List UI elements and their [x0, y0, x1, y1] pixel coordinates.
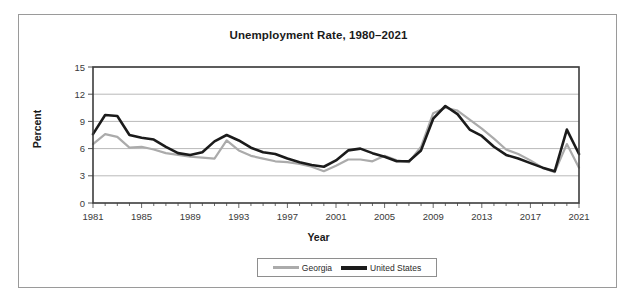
x-tick-label: 2017 [520, 211, 541, 222]
y-tick-label: 6 [80, 143, 85, 154]
x-tick-label: 1989 [180, 211, 201, 222]
x-tick-label: 1993 [228, 211, 249, 222]
chart-figure: Unemployment Rate, 1980–2021 Percent Yea… [18, 14, 617, 288]
y-tick-label: 15 [74, 62, 85, 73]
x-axis-ticks: 1981198519891993199720012005200920132017… [82, 203, 589, 222]
legend-item-united-states: United States [341, 263, 421, 273]
y-tick-label: 3 [80, 170, 85, 181]
plot-border [93, 67, 579, 203]
legend-line-icon-georgia [273, 266, 299, 269]
legend-line-icon-united-states [341, 266, 367, 270]
axis-frame [93, 67, 579, 203]
legend-item-georgia: Georgia [273, 263, 332, 273]
series-line-georgia [93, 108, 579, 172]
x-tick-label: 2021 [568, 211, 589, 222]
x-tick-label: 1985 [131, 211, 152, 222]
plot-area: 03691215 1981198519891993199720012005200… [19, 15, 618, 255]
x-tick-label: 2009 [423, 211, 444, 222]
series-line-united-states [93, 106, 579, 171]
x-tick-label: 2001 [325, 211, 346, 222]
y-tick-label: 9 [80, 116, 85, 127]
y-tick-label: 12 [74, 89, 85, 100]
legend-label-georgia: Georgia [302, 263, 332, 273]
x-tick-label: 2013 [471, 211, 492, 222]
y-axis-ticks: 03691215 [74, 62, 93, 209]
x-tick-label: 2005 [374, 211, 395, 222]
y-tick-label: 0 [80, 198, 85, 209]
x-tick-label: 1997 [277, 211, 298, 222]
x-tick-label: 1981 [82, 211, 103, 222]
chart-legend: Georgia United States [257, 258, 437, 277]
data-series-group [93, 106, 579, 172]
legend-label-united-states: United States [370, 263, 421, 273]
